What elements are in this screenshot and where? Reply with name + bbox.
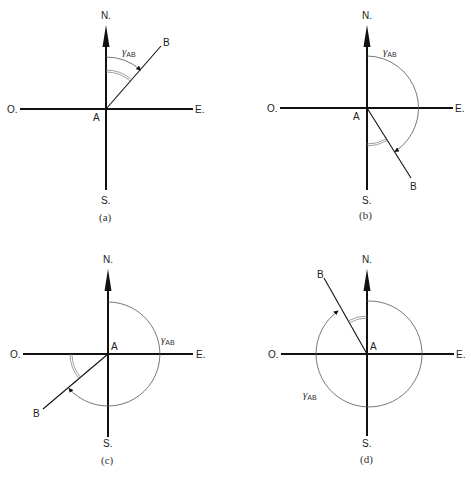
angle-double-arc [70, 354, 79, 379]
point-b-label: B [163, 37, 170, 48]
west-label: O. [268, 349, 279, 360]
north-label: N. [362, 10, 372, 21]
panel-caption: (a) [99, 211, 112, 224]
panel-caption: (b) [359, 209, 372, 222]
south-label: S. [103, 438, 112, 449]
azimuth-diagram: N. S. E. O. A B γAB (a) N. S. E. O. A B … [0, 0, 471, 478]
south-label: S. [362, 195, 371, 206]
azimuth-label: γAB [383, 45, 397, 58]
angle-double-arc [367, 141, 387, 147]
west-label: O. [10, 349, 21, 360]
south-label: S. [362, 438, 371, 449]
direction-ab-line [367, 108, 411, 178]
east-label: E. [195, 104, 204, 115]
direction-ab-line [324, 278, 367, 354]
north-label: N. [362, 254, 372, 265]
point-a-label: A [111, 341, 118, 352]
point-b-label: B [317, 269, 324, 280]
east-label: E. [456, 349, 465, 360]
point-a-label: A [93, 112, 100, 123]
point-a-label: A [370, 341, 377, 352]
panel-d: N. S. E. O. A B γAB (d) [268, 254, 465, 466]
east-label: E. [196, 349, 205, 360]
panel-caption: (c) [101, 454, 114, 467]
panel-c: N. S. E. O. A B γAB (c) [10, 254, 205, 467]
north-arrow-icon [103, 25, 110, 47]
point-b-label: B [410, 181, 417, 192]
angle-double-arc [348, 316, 367, 321]
angle-double-arc [106, 70, 132, 80]
north-arrow-icon [105, 269, 112, 291]
point-a-label: A [353, 111, 360, 122]
point-b-label: B [33, 408, 40, 419]
azimuth-label: γAB [303, 388, 317, 401]
north-arrow-icon [364, 25, 371, 47]
azimuth-arc [367, 56, 419, 152]
west-label: O. [7, 104, 18, 115]
west-label: O. [267, 103, 278, 114]
panel-a: N. S. E. O. A B γAB (a) [7, 10, 204, 224]
azimuth-label: γAB [161, 333, 175, 346]
azimuth-arc [106, 57, 141, 70]
north-label: N. [101, 10, 111, 21]
east-label: E. [455, 103, 464, 114]
azimuth-label: γAB [122, 45, 136, 58]
north-label: N. [103, 254, 113, 265]
panel-caption: (d) [360, 453, 373, 466]
panel-b: N. S. E. O. A B γAB (b) [267, 10, 464, 222]
south-label: S. [101, 195, 110, 206]
north-arrow-icon [364, 269, 371, 291]
direction-ab-line [43, 354, 108, 409]
